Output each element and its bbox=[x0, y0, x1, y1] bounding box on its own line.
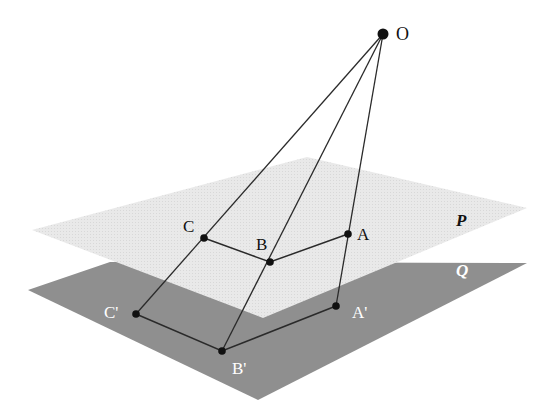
label-o: O bbox=[396, 24, 409, 44]
point-c bbox=[200, 234, 208, 242]
point-b bbox=[266, 258, 274, 266]
point-a bbox=[344, 230, 352, 238]
label-b: B bbox=[256, 235, 267, 254]
label-c-prime: C' bbox=[104, 303, 118, 322]
point-a-prime bbox=[332, 302, 340, 310]
point-c-prime bbox=[132, 310, 140, 318]
label-b-prime: B' bbox=[232, 359, 246, 378]
label-a-prime: A' bbox=[352, 303, 367, 322]
projection-diagram: OCBAC'B'A'PQ bbox=[0, 0, 557, 415]
label-q: Q bbox=[456, 261, 468, 280]
label-p: P bbox=[455, 211, 467, 230]
point-b-prime bbox=[218, 347, 226, 355]
point-o bbox=[378, 29, 389, 40]
label-c: C bbox=[183, 217, 194, 236]
label-a: A bbox=[357, 225, 370, 244]
